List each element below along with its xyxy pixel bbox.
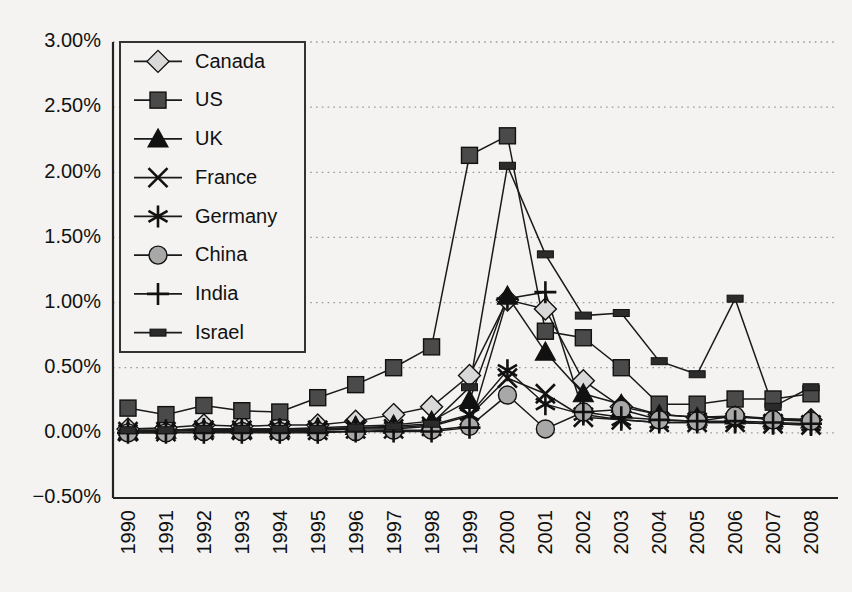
y-tick-label: −0.50% (33, 485, 102, 507)
legend-label: UK (195, 127, 223, 149)
data-point-marker-circle (149, 246, 167, 264)
data-point-marker-square (120, 400, 136, 416)
legend-label: Canada (195, 50, 266, 72)
data-point-marker-dash (727, 295, 743, 302)
x-tick-label: 1997 (383, 510, 405, 555)
data-point-marker-dash (272, 425, 288, 432)
data-point-marker-dash (234, 425, 250, 432)
x-tick-label: 1999 (459, 510, 481, 555)
x-tick-label: 1992 (193, 510, 215, 555)
y-tick-label: 3.00% (44, 29, 101, 51)
chart-container: 3.00%2.50%2.00%1.50%1.00%0.50%0.00%−0.50… (0, 0, 852, 592)
data-point-marker-square (499, 128, 515, 144)
data-point-marker-dash (613, 309, 629, 316)
data-point-marker-square (348, 377, 364, 393)
x-tick-label: 2008 (800, 510, 822, 555)
data-point-marker-dash (348, 424, 364, 431)
data-point-marker-dash (310, 425, 326, 432)
x-tick-label: 1991 (155, 510, 177, 555)
data-point-marker-dash (386, 423, 402, 430)
x-tick-label: 1996 (345, 510, 367, 555)
data-point-marker-circle (498, 386, 516, 404)
data-point-marker-dash (158, 427, 174, 434)
x-tick-label: 2005 (686, 510, 708, 555)
legend-label: France (195, 166, 257, 188)
x-tick-label: 1990 (117, 510, 139, 555)
data-point-marker-dash (424, 420, 440, 427)
x-tick-label: 2003 (610, 510, 632, 555)
data-point-marker-dash (120, 427, 136, 434)
x-tick-label: 2000 (496, 510, 518, 555)
data-point-marker-square (424, 339, 440, 355)
data-point-marker-dash (651, 358, 667, 365)
data-point-marker-square (462, 147, 478, 163)
y-tick-label: 0.50% (44, 355, 101, 377)
line-chart: 3.00%2.50%2.00%1.50%1.00%0.50%0.00%−0.50… (0, 0, 852, 592)
x-tick-label: 2004 (648, 510, 670, 555)
y-tick-label: 2.00% (44, 160, 101, 182)
data-point-marker-square (196, 397, 212, 413)
x-tick-label: 1994 (269, 510, 291, 555)
y-tick-label: 2.50% (44, 94, 101, 116)
data-point-marker-circle (536, 420, 554, 438)
data-point-marker-dash (765, 403, 781, 410)
data-point-marker-dash (499, 162, 515, 169)
data-point-marker-square (150, 92, 166, 108)
y-tick-label: 1.00% (44, 290, 101, 312)
legend-label: China (195, 243, 248, 265)
data-point-marker-dash (537, 251, 553, 258)
x-tick-label: 2007 (762, 510, 784, 555)
legend-label: US (195, 88, 223, 110)
x-tick-label: 1995 (307, 510, 329, 555)
data-point-marker-dash (689, 371, 705, 378)
x-tick-label: 2002 (572, 510, 594, 555)
data-point-marker-square (310, 390, 326, 406)
x-tick-label: 2001 (534, 510, 556, 555)
data-point-marker-dash (196, 425, 212, 432)
data-point-marker-square (537, 323, 553, 339)
data-point-marker-dash (462, 384, 478, 391)
data-point-marker-dash (803, 384, 819, 391)
data-point-marker-square (727, 391, 743, 407)
x-tick-label: 1998 (421, 510, 443, 555)
data-point-marker-square (575, 330, 591, 346)
data-point-marker-dash (150, 329, 166, 336)
data-point-marker-square (234, 403, 250, 419)
data-point-marker-square (386, 360, 402, 376)
legend-label: Israel (195, 321, 244, 343)
y-tick-label: 1.50% (44, 225, 101, 247)
x-tick-label: 2006 (724, 510, 746, 555)
x-tick-label: 1993 (231, 510, 253, 555)
data-point-marker-dash (575, 312, 591, 319)
chart-legend: CanadaUSUKFranceGermanyChinaIndiaIsrael (120, 42, 305, 352)
y-tick-label: 0.00% (44, 420, 101, 442)
data-point-marker-square (272, 404, 288, 420)
legend-label: India (195, 282, 239, 304)
legend-label: Germany (195, 205, 277, 227)
data-point-marker-square (613, 360, 629, 376)
